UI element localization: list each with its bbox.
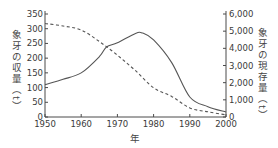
right-tick-label: 5,000 (229, 26, 253, 36)
right-tick-label: 3,000 (229, 61, 253, 71)
left-tick-label: 150 (27, 68, 43, 78)
left-tick-label: 350 (27, 9, 43, 19)
ivory-stock-line (45, 23, 226, 114)
right-axis-title: 象牙の現存量（t） (257, 28, 267, 121)
left-tick-label: 250 (27, 38, 43, 48)
x-axis-title: 年 (130, 131, 140, 145)
left-tick-label: 200 (27, 53, 43, 63)
x-tick-label: 1960 (70, 119, 92, 129)
x-tick-label: 1950 (34, 119, 56, 129)
right-tick-label: 1,000 (229, 95, 253, 105)
right-tick-label: 6,000 (229, 9, 253, 19)
x-tick-label: 1980 (143, 119, 165, 129)
axes (45, 11, 226, 117)
x-tick-label: 1970 (107, 119, 129, 129)
left-tick-label: 100 (27, 83, 43, 93)
right-tick-label: 4,000 (229, 43, 253, 53)
left-axis-title: 象牙の収量（t） (11, 30, 21, 112)
series (45, 23, 226, 114)
ivory-harvest-line (45, 32, 226, 112)
x-tick-label: 2000 (215, 119, 237, 129)
left-tick-label: 300 (27, 24, 43, 34)
left-tick-label: 50 (32, 97, 43, 107)
x-tick-label: 1990 (179, 119, 201, 129)
right-tick-label: 2,000 (229, 78, 253, 88)
ticks: 05010015020025030035001,0002,0003,0004,0… (27, 9, 254, 129)
dual-axis-line-chart: 05010015020025030035001,0002,0003,0004,0… (0, 0, 278, 148)
